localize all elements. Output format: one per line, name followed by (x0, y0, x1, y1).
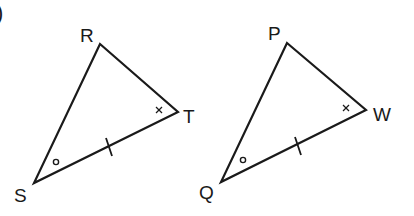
vertex-label-t: T (183, 106, 195, 127)
angle-s-circle-mark (53, 159, 58, 164)
vertex-label-w: W (373, 104, 391, 125)
angle-q-circle-mark (240, 157, 245, 162)
vertex-label-r: R (80, 25, 94, 46)
triangle-rst: R T S (14, 25, 195, 206)
triangle-rst-outline (34, 44, 178, 183)
angle-t-x-mark (156, 107, 162, 113)
vertex-label-p: P (268, 23, 281, 44)
vertex-label-q: Q (199, 182, 214, 203)
triangle-pqw-outline (221, 43, 366, 182)
angle-w-x-mark (343, 105, 349, 111)
problem-marker: ) (0, 0, 3, 25)
triangle-pqw: P W Q (199, 23, 391, 203)
vertex-label-s: S (14, 185, 27, 206)
congruent-triangles-diagram: ) R T S P W Q (0, 0, 414, 216)
